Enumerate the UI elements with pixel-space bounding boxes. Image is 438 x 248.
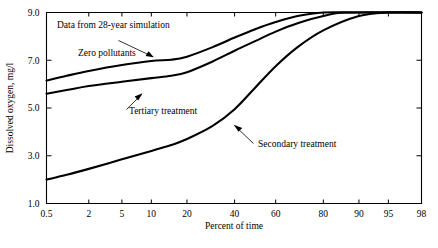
label-tertiary-treatment: Tertiary treatment — [129, 106, 198, 116]
x-tick-label: 10 — [147, 209, 157, 219]
label-zero-pollutants: Zero pollutants — [78, 48, 136, 58]
chart-svg: 0.5251020406080909598 1.03.05.07.09.0 Da… — [0, 0, 438, 248]
y-tick-label: 3.0 — [28, 151, 40, 161]
x-tick-label: 0.5 — [41, 209, 53, 219]
x-tick-label: 90 — [354, 209, 364, 219]
x-tick-label: 98 — [417, 209, 427, 219]
y-tick-label: 9.0 — [28, 8, 40, 18]
x-tick-label: 2 — [86, 209, 91, 219]
data-curves — [47, 12, 422, 179]
x-tick-label: 60 — [271, 209, 281, 219]
y-tick-label: 1.0 — [28, 199, 40, 209]
y-tick-label: 5.0 — [28, 103, 40, 113]
x-tick-label: 80 — [319, 209, 329, 219]
x-axis-title: Percent of time — [205, 221, 263, 231]
x-axis-ticks — [47, 13, 422, 204]
note-text: Data from 28-year simulation — [57, 20, 170, 30]
arrowhead-zero-pollutants — [146, 51, 154, 57]
axis-frame — [47, 13, 422, 204]
y-axis-ticks — [47, 13, 422, 204]
x-tick-label: 40 — [230, 209, 240, 219]
x-tick-label: 5 — [120, 209, 125, 219]
label-secondary-treatment: Secondary treatment — [258, 139, 337, 149]
arrowhead-tertiary-treatment — [135, 93, 143, 100]
y-tick-label: 7.0 — [28, 56, 40, 66]
y-axis-tick-labels: 1.03.05.07.09.0 — [28, 8, 40, 209]
x-tick-label: 95 — [384, 209, 394, 219]
y-axis-title: Dissolved oxygen, mg/l — [5, 62, 15, 153]
x-tick-label: 20 — [182, 209, 192, 219]
chart-figure: 0.5251020406080909598 1.03.05.07.09.0 Da… — [0, 0, 438, 248]
arrowhead-secondary-treatment — [234, 125, 243, 132]
plot-frame — [47, 13, 422, 204]
x-axis-tick-labels: 0.5251020406080909598 — [41, 209, 427, 219]
